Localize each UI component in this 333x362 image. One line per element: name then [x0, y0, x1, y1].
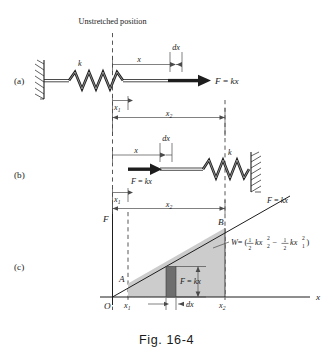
dim-x1-a: x1	[113, 96, 134, 113]
unstretched-position-label: Unstretched position	[79, 17, 147, 26]
work-term2-sup: 2	[302, 235, 305, 241]
panel-c-label: (c)	[14, 262, 24, 272]
dx-label-c: dx	[186, 300, 194, 309]
y-axis-label: F	[102, 214, 109, 224]
work-term1-sub: 2	[267, 243, 270, 249]
work-half-den-1: 2	[249, 245, 252, 251]
dim-x2-label-b: x2	[165, 200, 173, 210]
panel-c: (c) F x O A B	[14, 196, 321, 311]
panel-a-label: (a)	[14, 76, 24, 86]
dim-dx-a: dx	[170, 43, 182, 72]
dim-x1-label-b: x1	[113, 195, 121, 205]
dim-dx-b: dx	[160, 134, 172, 162]
figure-root: Unstretched position (a)	[0, 0, 333, 362]
work-term1: kx	[255, 238, 263, 247]
svg-text:W= (: W= (	[231, 238, 247, 247]
x-axis-label: x	[315, 292, 321, 302]
work-equation: W= ( 1 2 kx 2 2 − 1 2 kx 1 2 )	[231, 235, 310, 251]
wall-a	[35, 60, 44, 99]
dim-dx-label-b: dx	[162, 134, 170, 143]
dim-x1-b: x1	[113, 188, 134, 205]
dim-dx-label-a: dx	[172, 43, 180, 52]
force-label-b: F = kx	[130, 177, 152, 186]
point-a-label: A	[118, 274, 125, 284]
origin-label: O	[104, 301, 111, 311]
dim-x-label-a: x	[136, 55, 141, 64]
dim-x-a: x	[113, 55, 177, 72]
dim-x-label-b: x	[133, 146, 138, 155]
work-minus: −	[273, 238, 278, 247]
tick-x1-label: x1	[123, 301, 131, 311]
spring-a: k	[44, 59, 168, 89]
panel-b: (b) k	[14, 124, 261, 214]
panel-a: (a)	[14, 43, 239, 124]
force-arrow-b	[128, 163, 162, 175]
force-arrow-a	[168, 75, 211, 87]
wall-b	[251, 152, 261, 192]
work-half-den-2: 2	[284, 245, 287, 251]
force-label-a: F = kx	[214, 76, 239, 86]
force-line-label: F = kx	[266, 196, 288, 205]
work-term1-sup: 2	[267, 235, 270, 241]
work-term2: kx	[290, 238, 298, 247]
panel-b-label: (b)	[14, 170, 25, 180]
dim-x2-b: x2	[113, 200, 226, 214]
spring-work-figure: Unstretched position (a)	[0, 0, 333, 362]
point-b-label: B	[218, 217, 224, 227]
work-equals: = (	[238, 238, 248, 247]
spring-constant-b: k	[228, 148, 232, 157]
strip-force-label: F = kx	[179, 277, 201, 286]
work-term2-sub: 1	[302, 243, 305, 249]
work-half-num-1: 1	[249, 237, 252, 243]
dim-x2-a: x2	[113, 108, 226, 124]
work-area-shaded	[128, 228, 225, 297]
dim-x1-label-a: x1	[113, 103, 121, 113]
work-close-paren: )	[307, 238, 310, 247]
dx-strip	[166, 267, 176, 298]
spring-constant-a: k	[78, 59, 82, 68]
work-half-num-2: 1	[284, 237, 287, 243]
figure-caption: Fig. 16-4	[0, 333, 333, 347]
dim-x-b: x	[113, 146, 167, 162]
spring-b: k	[160, 148, 249, 178]
dx-indicator-c	[148, 298, 184, 310]
dim-x2-label-a: x2	[165, 109, 173, 119]
tick-x2-label: x2	[218, 301, 226, 311]
